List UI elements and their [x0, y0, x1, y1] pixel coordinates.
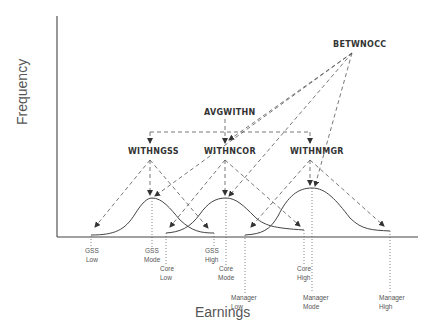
svg-text:High: High [379, 303, 393, 311]
svg-text:Core: Core [219, 265, 233, 272]
node-betwnocc: BETWNOCC [333, 40, 386, 49]
svg-text:Core: Core [297, 265, 311, 272]
svg-text:Manager: Manager [231, 294, 257, 302]
svg-text:Mode: Mode [303, 303, 320, 310]
svg-text:GSS: GSS [145, 247, 159, 254]
svg-text:GSS: GSS [85, 247, 99, 254]
svg-text:Mode: Mode [218, 274, 235, 281]
svg-text:Core: Core [160, 265, 174, 272]
node-avgwithn: AVGWITHN [204, 108, 255, 117]
withnmgr-arrows [251, 160, 384, 227]
y-axis-label: Frequency [14, 59, 30, 125]
tick-core-high: Core High [297, 265, 311, 282]
svg-text:Manager: Manager [379, 294, 405, 302]
tick-gss-low: GSS Low [85, 247, 99, 263]
svg-text:GSS: GSS [205, 247, 219, 254]
svg-text:Low: Low [86, 256, 98, 263]
tick-core-mode: Core Mode [218, 265, 235, 281]
tick-manager-mode: Manager Mode [303, 294, 329, 310]
svg-text:High: High [205, 256, 219, 264]
node-withnmgr: WITHNMGR [290, 147, 344, 156]
tick-manager-high: Manager High [379, 294, 405, 311]
svg-text:Mode: Mode [144, 256, 161, 263]
svg-text:Manager: Manager [303, 294, 329, 302]
tick-gss-mode: GSS Mode [144, 247, 161, 263]
svg-text:Low: Low [231, 303, 243, 310]
betwnocc-arrows [155, 53, 352, 196]
tick-gss-high: GSS High [205, 247, 219, 264]
svg-text:High: High [297, 274, 311, 282]
node-withngss: WITHNGSS [128, 147, 179, 156]
node-withncor: WITHNCOR [204, 147, 256, 156]
gss-distribution-curve [91, 198, 214, 235]
earnings-distribution-diagram: Frequency Earnings GSS Low GSS Mode Core… [0, 0, 428, 333]
svg-text:Low: Low [160, 274, 172, 281]
tick-core-low: Core Low [160, 265, 174, 281]
